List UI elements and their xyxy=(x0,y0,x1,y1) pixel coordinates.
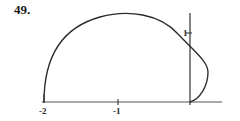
y-tick-label-1: 1 xyxy=(183,28,188,38)
plot-canvas: -2 -1 1 xyxy=(0,0,240,121)
x-tick-label-minus-2: -2 xyxy=(39,106,47,116)
curve-path xyxy=(44,13,208,102)
figure-container: 49. -2 -1 1 xyxy=(0,0,240,121)
x-tick-label-minus-1: -1 xyxy=(113,106,121,116)
